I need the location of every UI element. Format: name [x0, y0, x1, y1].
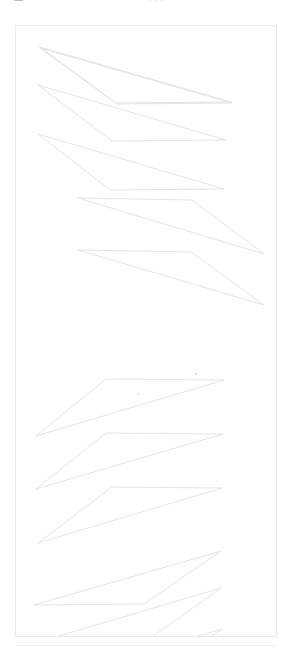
marker-group [137, 373, 197, 395]
sliver-7 [36, 379, 224, 436]
marker-b [137, 393, 139, 395]
sliver-11 [35, 588, 221, 636]
header-label-mid: · · · [148, 0, 163, 5]
sliver-shape-group [34, 47, 264, 636]
sliver-6 [78, 250, 264, 305]
drawing-canvas-panel[interactable] [15, 25, 277, 637]
header-label-left: — [14, 0, 23, 5]
sliver-2 [40, 48, 232, 104]
sliver-4 [38, 134, 224, 190]
figure-svg [16, 26, 276, 636]
marker-a [195, 373, 197, 375]
sliver-8 [36, 433, 223, 489]
sliver-10 [34, 551, 221, 605]
sliver-9 [38, 487, 222, 543]
screenshot-root: — · · · [0, 0, 291, 654]
sliver-5 [78, 198, 264, 254]
clipped-header-strip: — · · · [0, 0, 291, 13]
bottom-divider [15, 645, 277, 646]
